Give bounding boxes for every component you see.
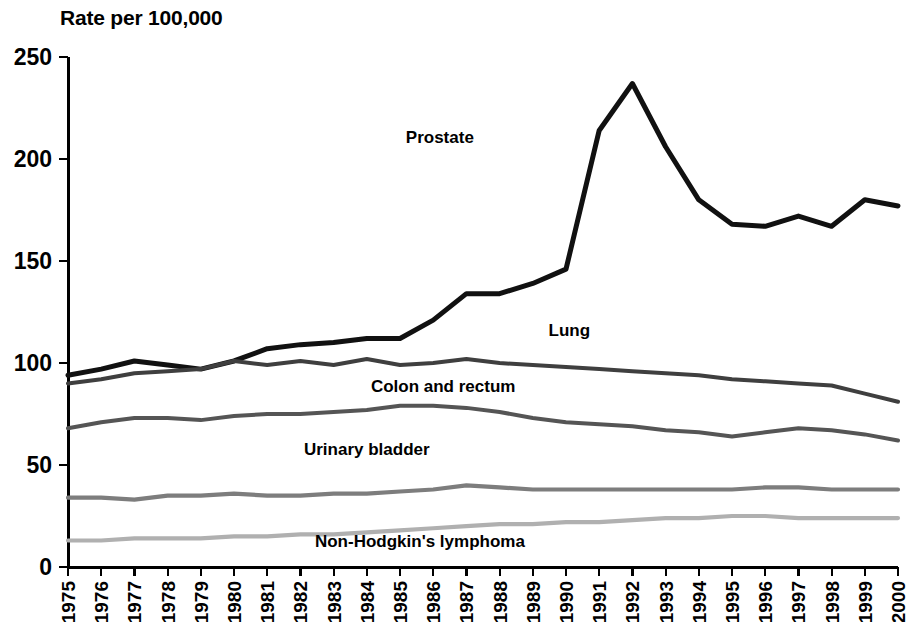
x-axis-tick-label: 1990 [556, 581, 577, 622]
series-line-group [68, 84, 898, 541]
x-axis-label-group: 1975197619771978197919801981198219831984… [58, 581, 909, 622]
x-axis-tick-label: 1998 [822, 581, 843, 622]
x-axis-tick-label: 1977 [124, 581, 145, 622]
x-axis-tick-label: 1993 [656, 581, 677, 622]
x-axis-tick-label: 1988 [490, 581, 511, 622]
y-axis-tick-label: 100 [14, 350, 52, 376]
x-axis-tick-label: 1985 [390, 581, 411, 622]
y-axis-tick-label: 200 [14, 146, 52, 172]
x-axis-tick-label: 1994 [689, 581, 710, 622]
y-axis-label-group: 050100150200250 [14, 44, 52, 580]
series-label-colon-and-rectum: Colon and rectum [371, 377, 516, 396]
y-axis-tick-label: 0 [39, 554, 52, 580]
x-axis-tick-label: 2000 [888, 581, 909, 622]
series-line-urinary-bladder [68, 485, 898, 499]
x-axis-tick-label: 1999 [855, 581, 876, 622]
x-axis-tick-label: 1997 [788, 581, 809, 622]
x-axis-tick-label: 1976 [91, 581, 112, 622]
y-axis-tick-label: 250 [14, 44, 52, 70]
chart-axes [68, 57, 898, 567]
x-axis-tick-label: 1989 [523, 581, 544, 622]
x-axis-tick-label: 1981 [257, 581, 278, 622]
x-axis-tick-label: 1984 [357, 581, 378, 622]
x-axis-tick-label: 1983 [324, 581, 345, 622]
x-axis-tick-label: 1995 [722, 581, 743, 622]
x-axis-tick-label: 1987 [456, 581, 477, 622]
series-label-prostate: Prostate [406, 128, 474, 147]
x-axis-tick-label: 1978 [158, 581, 179, 622]
x-axis-tick-label: 1986 [423, 581, 444, 622]
x-axis-tick-label: 1992 [622, 581, 643, 622]
line-chart-plot: ProstateLungColon and rectumUrinary blad… [0, 0, 912, 622]
series-line-colon-and-rectum [68, 406, 898, 441]
x-axis-tick-label: 1980 [224, 581, 245, 622]
x-axis-tick-label: 1979 [191, 581, 212, 622]
y-axis-tick-label: 50 [26, 452, 52, 478]
x-axis-tick-label: 1982 [290, 581, 311, 622]
y-axis-tick-label: 150 [14, 248, 52, 274]
series-label-urinary-bladder: Urinary bladder [304, 440, 430, 459]
chart-container: Rate per 100,000 ProstateLungColon and r… [0, 0, 912, 622]
x-axis-tick-label: 1975 [58, 581, 79, 622]
x-axis-tick-label: 1991 [589, 581, 610, 622]
series-label-non-hodgkin-s-lymphoma: Non-Hodgkin's lymphoma [315, 532, 525, 551]
series-line-prostate [68, 84, 898, 376]
x-axis-tick-label: 1996 [755, 581, 776, 622]
series-label-lung: Lung [549, 321, 591, 340]
